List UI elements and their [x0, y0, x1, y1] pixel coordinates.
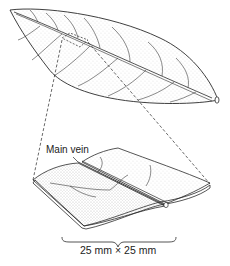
leaf-diagram: [0, 0, 230, 266]
whole-leaf: [10, 9, 219, 103]
scale-label: 25 mm × 25 mm: [80, 244, 156, 256]
enlarged-section: [33, 148, 210, 229]
leaf-stem: [215, 97, 219, 103]
main-vein-label: Main vein: [46, 144, 89, 155]
